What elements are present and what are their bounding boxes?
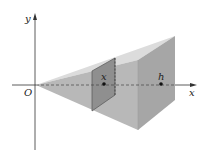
point-h-label: h xyxy=(158,71,164,82)
pyramid-diagram: y x O x h xyxy=(0,0,204,154)
point-h xyxy=(159,82,163,86)
point-x xyxy=(102,82,106,86)
y-axis-arrow xyxy=(33,13,37,20)
x-axis-label: x xyxy=(189,87,195,98)
y-axis-label: y xyxy=(24,13,31,24)
point-x-label: x xyxy=(101,71,107,82)
origin-label: O xyxy=(24,87,32,98)
